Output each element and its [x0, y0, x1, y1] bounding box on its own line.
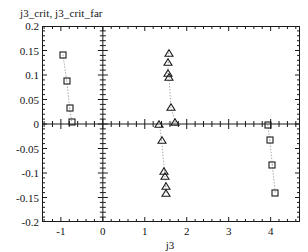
plot-title: j3_crit, j3_crit_far	[20, 7, 103, 19]
x-tick-label: 3	[226, 226, 232, 237]
y-tick-label: -0.1	[22, 168, 39, 179]
y-tick-label: 0.05	[20, 94, 39, 105]
x-tick-label: 2	[184, 226, 190, 237]
y-tick-label: 0.15	[20, 45, 39, 56]
x-tick-label: 0	[100, 226, 106, 237]
y-tick-label: -0.05	[16, 143, 39, 154]
x-axis-title: j3	[166, 240, 175, 251]
y-tick-label: 0.2	[25, 21, 39, 32]
y-tick-label: -0.15	[16, 192, 39, 203]
y-tick-label: 0	[34, 119, 40, 130]
plot-area	[42, 26, 300, 222]
y-tick-label: 0.1	[25, 70, 39, 81]
x-tick-label: 4	[268, 226, 274, 237]
y-tick-label: -0.2	[22, 217, 39, 228]
x-tick-label: -1	[56, 226, 65, 237]
figure-root: j3_crit, j3_crit_far 0.20.150.10.050-0.0…	[0, 0, 308, 252]
plot-frame	[42, 26, 300, 222]
x-tick-label: 1	[142, 226, 148, 237]
